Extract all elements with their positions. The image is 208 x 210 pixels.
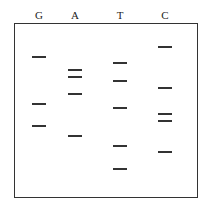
band-g (32, 56, 46, 58)
band-t (113, 168, 127, 170)
band-c (158, 46, 172, 48)
band-a (68, 69, 82, 71)
band-a (68, 76, 82, 78)
lane-label-c: C (155, 9, 175, 22)
band-g (32, 103, 46, 105)
band-t (113, 145, 127, 147)
lane-label-t: T (110, 9, 130, 22)
gel-frame (14, 23, 198, 198)
lane-label-a: A (65, 9, 85, 22)
lane-label-g: G (29, 9, 49, 22)
band-g (32, 125, 46, 127)
band-c (158, 87, 172, 89)
band-a (68, 135, 82, 137)
band-t (113, 80, 127, 82)
band-a (68, 93, 82, 95)
band-c (158, 151, 172, 153)
band-t (113, 107, 127, 109)
band-c (158, 113, 172, 115)
band-t (113, 62, 127, 64)
band-c (158, 120, 172, 122)
